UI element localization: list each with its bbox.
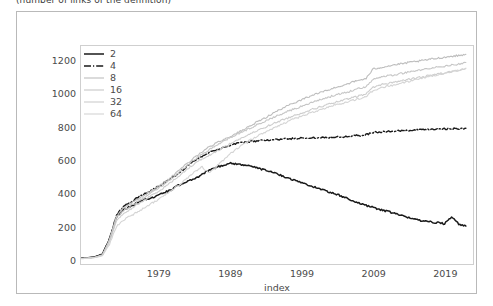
x-tick-label: 2009 (362, 268, 386, 279)
legend-swatch-64 (83, 109, 105, 119)
figure-caption-clipped: (number of links of the definition) (16, 0, 461, 4)
legend-item-4: 4 (83, 61, 122, 71)
legend-swatch-4 (83, 61, 105, 71)
x-tick-label: 1999 (290, 268, 314, 279)
series-line-64 (81, 68, 466, 259)
y-tick-label: 400 (36, 188, 76, 199)
series-line-8 (81, 54, 466, 258)
legend-swatch-8 (83, 73, 105, 83)
y-tick-label: 800 (36, 121, 76, 132)
x-tick-label: 1979 (147, 268, 171, 279)
legend-swatch-32 (83, 97, 105, 107)
legend-label-64: 64 (110, 109, 122, 119)
legend-swatch-2 (83, 49, 105, 59)
y-tick-label: 600 (36, 155, 76, 166)
legend-swatch-16 (83, 85, 105, 95)
series-line-2 (81, 163, 466, 259)
y-axis-tick-labels: 020040060080010001200 (32, 45, 76, 265)
legend-item-16: 16 (83, 85, 122, 95)
series-line-4 (81, 128, 466, 258)
chart-legend: 248163264 (81, 46, 128, 122)
legend-item-8: 8 (83, 73, 122, 83)
legend-label-32: 32 (110, 97, 122, 107)
y-tick-label: 1200 (36, 55, 76, 66)
x-axis-label: index (80, 282, 474, 293)
legend-item-64: 64 (83, 109, 122, 119)
legend-label-16: 16 (110, 85, 122, 95)
legend-item-2: 2 (83, 49, 122, 59)
y-tick-label: 1000 (36, 88, 76, 99)
legend-label-2: 2 (110, 49, 116, 59)
x-axis-tick-labels: 19791989199920092019 (80, 268, 474, 282)
plot-area (80, 45, 474, 265)
legend-label-8: 8 (110, 73, 116, 83)
figure-card: 020040060080010001200 248163264 19791989… (16, 11, 477, 294)
chart-lines (81, 46, 473, 264)
y-tick-label: 0 (36, 255, 76, 266)
legend-label-4: 4 (110, 61, 116, 71)
screenshot-root: (number of links of the definition) 0200… (0, 0, 493, 306)
series-line-16 (81, 62, 466, 258)
x-tick-label: 2019 (433, 268, 457, 279)
legend-item-32: 32 (83, 97, 122, 107)
series-line-32 (81, 69, 466, 259)
x-tick-label: 1989 (218, 268, 242, 279)
y-tick-label: 200 (36, 221, 76, 232)
